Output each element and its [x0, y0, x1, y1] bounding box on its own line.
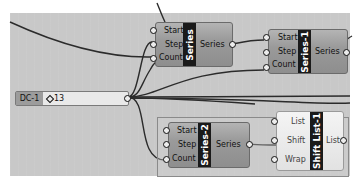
node-series-2[interactable]: Start Step Count Series-2 Series	[168, 122, 250, 168]
grip-series-out[interactable]	[229, 41, 236, 48]
grip-series-out[interactable]	[246, 141, 253, 148]
grip-start[interactable]	[263, 34, 270, 41]
input-start: Start	[164, 26, 184, 36]
input-list: List	[291, 117, 305, 127]
number-slider[interactable]: DC-1 13	[15, 91, 129, 106]
output-series: Series	[200, 40, 225, 50]
slider-value: 13	[54, 92, 64, 105]
input-count: Count	[272, 60, 296, 70]
slider-knob-icon[interactable]	[46, 95, 54, 103]
grip-count[interactable]	[163, 156, 170, 163]
grip-start[interactable]	[150, 27, 157, 34]
node-title: Series-2	[198, 123, 211, 167]
grip-list[interactable]	[271, 118, 278, 125]
output-list: List	[326, 136, 340, 146]
node-shift-list-1[interactable]: List Shift Wrap Shift List-1 List	[276, 111, 344, 171]
slider-output-grip[interactable]	[124, 95, 131, 102]
grip-count[interactable]	[263, 64, 270, 71]
grip-wrap[interactable]	[271, 156, 278, 163]
grip-step[interactable]	[150, 41, 157, 48]
node-series-1[interactable]: Start Step Count Series-1 Series	[268, 29, 348, 74]
grip-start[interactable]	[163, 127, 170, 134]
node-title: Series	[183, 23, 196, 66]
input-start: Start	[177, 126, 197, 136]
output-series: Series	[315, 47, 340, 57]
output-series: Series	[216, 140, 241, 150]
input-step: Step	[178, 140, 196, 150]
input-step: Step	[165, 40, 183, 50]
input-count: Count	[159, 53, 183, 63]
input-step: Step	[278, 47, 296, 57]
grip-list-out[interactable]	[340, 137, 347, 144]
slider-name: DC-1	[16, 92, 43, 105]
node-title: Shift List-1	[310, 112, 323, 170]
input-count: Count	[172, 154, 196, 164]
grip-shift[interactable]	[271, 137, 278, 144]
input-shift: Shift	[287, 136, 305, 146]
input-wrap: Wrap	[285, 155, 306, 165]
grip-count[interactable]	[150, 55, 157, 62]
grip-series-out[interactable]	[343, 49, 350, 56]
grip-step[interactable]	[263, 49, 270, 56]
input-start: Start	[278, 33, 298, 43]
node-series[interactable]: Start Step Count Series Series	[155, 22, 233, 67]
node-title: Series-1	[298, 30, 311, 73]
grip-step[interactable]	[163, 141, 170, 148]
